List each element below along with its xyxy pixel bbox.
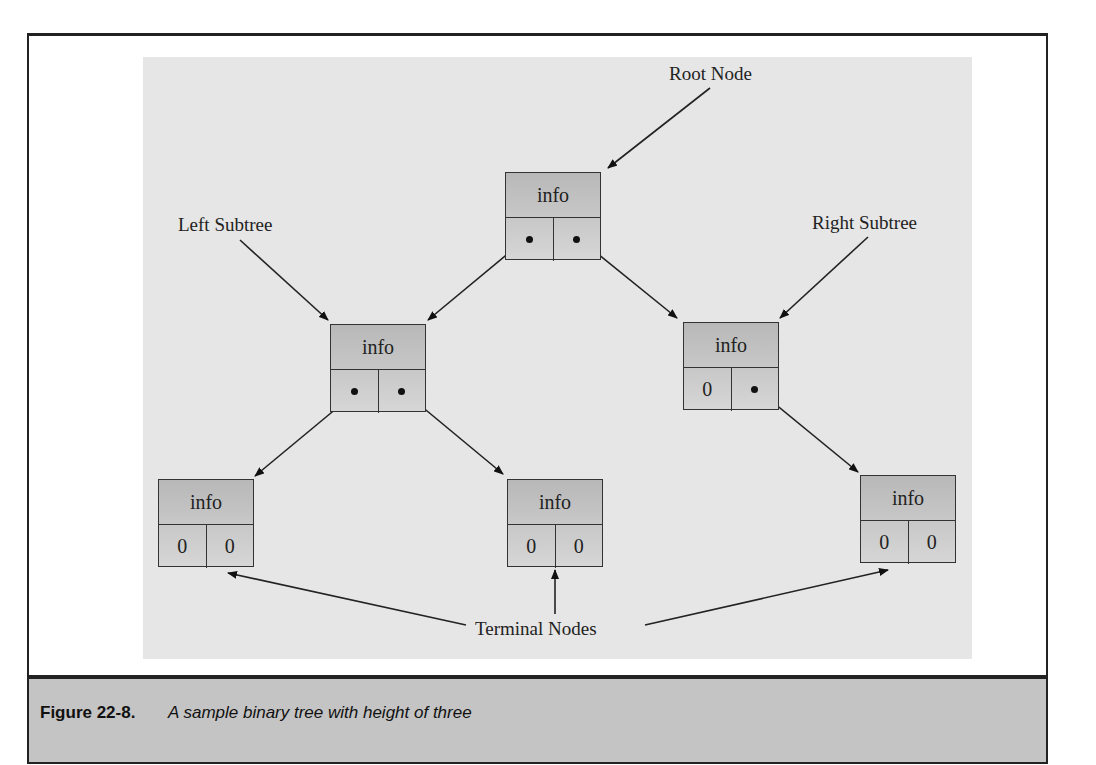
pointer-dot-icon (398, 388, 405, 395)
tree-node-leaf-right-right: info 0 0 (860, 475, 956, 563)
left-pointer (331, 370, 378, 413)
left-pointer (506, 218, 553, 261)
right-null: 0 (555, 525, 603, 568)
root-node-label: Root Node (669, 63, 752, 85)
left-null: 0 (508, 525, 555, 568)
right-pointer (378, 370, 426, 413)
left-subtree-label-arrow (240, 240, 328, 320)
figure-number: Figure 22-8. (40, 703, 135, 723)
right-null: 0 (206, 525, 254, 568)
right-subtree-label-arrow (780, 237, 868, 318)
left-null: 0 (159, 525, 206, 568)
tree-node-right: info 0 (683, 322, 779, 410)
pointer-dot-icon (573, 236, 580, 243)
figure-caption: A sample binary tree with height of thre… (168, 703, 472, 723)
right-pointer (731, 368, 779, 411)
root-label-arrow (608, 88, 710, 168)
tree-node-left: info (330, 324, 426, 412)
left-subtree-label: Left Subtree (178, 214, 272, 236)
node-info: info (159, 480, 253, 525)
tree-node-leaf-left-right: info 0 0 (507, 479, 603, 567)
arrow-layer (0, 0, 1096, 765)
node-info: info (508, 480, 602, 525)
right-pointer (553, 218, 601, 261)
pointer-dot-icon (751, 386, 758, 393)
right-subtree-label: Right Subtree (812, 212, 917, 234)
tree-node-leaf-left-left: info 0 0 (158, 479, 254, 567)
pointer-dot-icon (526, 236, 533, 243)
terminal-arrow-left (228, 573, 466, 625)
left-null: 0 (684, 368, 731, 411)
terminal-arrow-right (645, 570, 888, 625)
node-info: info (684, 323, 778, 368)
right-null: 0 (908, 521, 956, 564)
pointer-dot-icon (351, 388, 358, 395)
terminal-nodes-label: Terminal Nodes (475, 618, 597, 640)
node-info: info (861, 476, 955, 521)
node-info: info (506, 173, 600, 218)
tree-node-root: info (505, 172, 601, 260)
left-null: 0 (861, 521, 908, 564)
node-info: info (331, 325, 425, 370)
